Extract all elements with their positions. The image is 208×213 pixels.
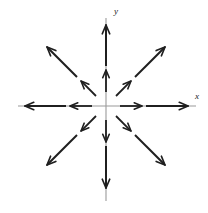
vector-arrow — [103, 70, 110, 92]
vector-arrow — [47, 47, 77, 77]
vector-arrow-shaft — [48, 48, 77, 77]
vector-field-figure: y x — [0, 0, 208, 213]
vector-arrow — [116, 81, 131, 96]
vector-field-canvas — [0, 0, 208, 213]
vector-arrow-shaft — [48, 135, 77, 164]
vector-arrow — [120, 103, 142, 110]
vector-arrow — [47, 135, 77, 165]
vector-arrow — [81, 81, 96, 96]
vector-arrow — [25, 102, 66, 109]
vector-arrow-shaft — [135, 48, 164, 77]
vector-arrow — [102, 146, 109, 188]
vector-arrow — [102, 25, 109, 66]
vector-arrow — [103, 120, 110, 142]
x-axis-label: x — [195, 92, 199, 101]
vector-arrow — [70, 103, 92, 110]
vector-arrow — [116, 116, 131, 131]
vector-arrow — [81, 116, 96, 131]
vector-arrow — [135, 135, 165, 165]
vector-arrow-shaft — [135, 135, 164, 164]
vector-arrow — [146, 102, 188, 109]
y-axis-label: y — [114, 7, 118, 16]
vector-arrow — [135, 47, 165, 77]
